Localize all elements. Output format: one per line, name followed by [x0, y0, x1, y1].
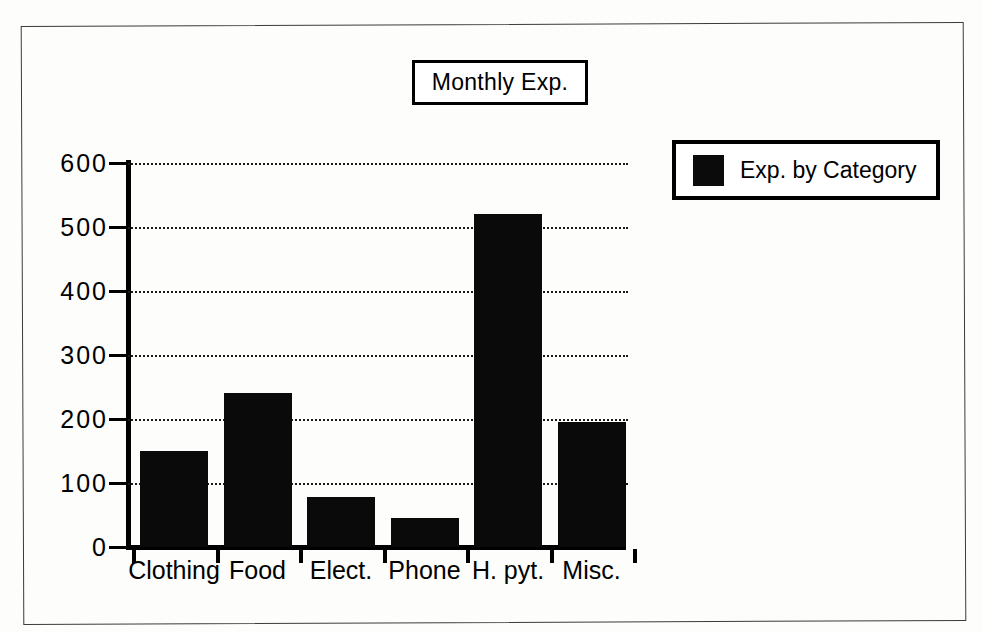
- chart-title-box: Monthly Exp.: [412, 60, 588, 105]
- x-axis-label: H. pyt.: [460, 556, 556, 585]
- chart-title: Monthly Exp.: [432, 69, 569, 96]
- y-axis-tick: [109, 546, 126, 549]
- legend-entry-label: Exp. by Category: [740, 157, 916, 184]
- gridline: [128, 419, 628, 421]
- x-axis-label: Misc.: [544, 556, 640, 585]
- gridline: [128, 291, 628, 293]
- chart-screenshot: Monthly Exp. Exp. by Category 0100200300…: [0, 0, 983, 633]
- y-axis-tick: [109, 354, 126, 357]
- y-axis-tick-label: 600: [60, 149, 108, 178]
- bar-h-pyt: [474, 214, 542, 547]
- x-axis-label: Phone: [377, 556, 473, 585]
- bar-phone: [391, 518, 459, 547]
- x-axis-tick: [633, 549, 637, 563]
- y-axis-tick-label: 0: [92, 533, 108, 562]
- y-axis-tick-label: 200: [60, 405, 108, 434]
- plot-area: 0100200300400500600: [128, 163, 626, 547]
- bar-clothing: [140, 451, 208, 547]
- gridline: [128, 355, 628, 357]
- gridline: [128, 227, 628, 229]
- y-axis-tick: [109, 482, 126, 485]
- y-axis-tick: [109, 162, 126, 165]
- y-axis-tick-label: 100: [60, 469, 108, 498]
- y-axis-tick: [109, 290, 126, 293]
- legend-swatch-icon: [693, 155, 724, 186]
- x-axis-label: Clothing: [126, 556, 222, 585]
- y-axis-tick-label: 300: [60, 341, 108, 370]
- y-axis-tick-label: 500: [60, 213, 108, 242]
- bar-misc: [558, 422, 626, 547]
- gridline: [128, 163, 628, 165]
- y-axis-tick: [109, 226, 126, 229]
- y-axis-tick-label: 400: [60, 277, 108, 306]
- y-axis-tick: [109, 418, 126, 421]
- bar-food: [224, 393, 292, 547]
- chart-legend: Exp. by Category: [672, 140, 940, 200]
- x-axis-label: Food: [210, 556, 306, 585]
- bar-elect: [307, 497, 375, 547]
- x-axis-label: Elect.: [293, 556, 389, 585]
